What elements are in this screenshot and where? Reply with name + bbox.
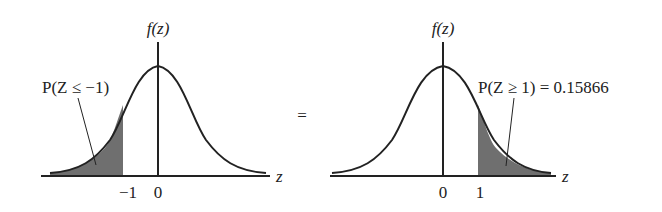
right-tick-1: 1 bbox=[476, 183, 485, 202]
right-annotation-pointer bbox=[506, 98, 514, 166]
right-tick-0: 0 bbox=[439, 183, 448, 202]
normal-distribution-diagram: f(z) z −1 0 P(Z ≤ −1) = f(z) z 0 1 P(Z ≥… bbox=[0, 0, 662, 212]
left-panel: f(z) z −1 0 P(Z ≤ −1) bbox=[41, 19, 283, 202]
left-annotation: P(Z ≤ −1) bbox=[42, 78, 109, 97]
equals-sign: = bbox=[297, 106, 307, 125]
left-tick-neg1: −1 bbox=[119, 183, 137, 202]
right-y-axis-label: f(z) bbox=[432, 19, 455, 38]
right-panel: f(z) z 0 1 P(Z ≥ 1) = 0.15866 bbox=[330, 19, 609, 202]
left-x-axis-label: z bbox=[275, 167, 283, 186]
right-annotation: P(Z ≥ 1) = 0.15866 bbox=[478, 78, 609, 97]
left-tick-0: 0 bbox=[154, 183, 163, 202]
right-tail-shading bbox=[478, 105, 551, 176]
left-annotation-pointer bbox=[78, 98, 96, 165]
left-tail-shading bbox=[50, 105, 123, 176]
right-x-axis-label: z bbox=[561, 167, 569, 186]
left-y-axis-label: f(z) bbox=[147, 19, 170, 38]
